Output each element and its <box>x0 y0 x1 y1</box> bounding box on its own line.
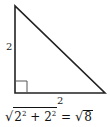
result-radicand: 8 <box>83 110 93 124</box>
radical-symbol: √ <box>5 109 13 124</box>
equation: √22 + 22 = √8 <box>5 107 93 124</box>
term2-base: 2 <box>44 110 52 124</box>
bottom-side-label: 2 <box>57 95 63 106</box>
right-triangle <box>15 6 105 93</box>
right-angle-marker <box>15 81 27 93</box>
plus-sign: + <box>30 110 40 124</box>
left-side-label: 2 <box>6 41 12 52</box>
radicand: 22 + 22 <box>13 107 57 124</box>
term1-base: 2 <box>14 110 22 124</box>
term1-exponent: 2 <box>22 110 26 118</box>
radical-symbol-result: √ <box>75 109 83 124</box>
term2-exponent: 2 <box>52 110 56 118</box>
equals-sign: = <box>61 110 71 124</box>
